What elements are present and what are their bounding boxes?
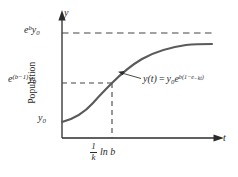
equation-equals-sign: = <box>157 73 167 84</box>
xtick-label-inflection-time: 1 k ln b <box>90 142 115 162</box>
inflection-factor-subscript: 0 <box>33 78 36 85</box>
ytick-label-inflection: e(b−1)y0 <box>8 74 36 86</box>
fraction-numerator: 1 <box>90 142 97 152</box>
fraction-denominator: k <box>91 153 97 163</box>
x-axis <box>62 134 224 141</box>
equation-exponent-close: ) <box>202 73 204 80</box>
equation-exponent-inner-power: −kt <box>194 75 202 81</box>
ln-b-label: ln b <box>100 147 115 157</box>
ytick-label-asymptote: eby0 <box>24 25 40 37</box>
t-axis-label: t <box>223 133 226 143</box>
equation-exponent-open: b(1− <box>179 73 191 80</box>
inflection-exponent: (b−1) <box>12 73 28 80</box>
y0-subscript: 0 <box>42 117 45 124</box>
ytick-label-initial: y0 <box>38 113 46 125</box>
curve-equation-annotation: y(t)=y0eb(1−e−kt) <box>143 74 204 86</box>
equation-function-arg: (t) <box>147 73 156 84</box>
asymptote-factor-subscript: 0 <box>36 29 39 36</box>
fraction-one-over-k: 1 k <box>90 142 97 162</box>
gompertz-growth-figure: y t Population eby0 e(b−1)y0 y0 1 k ln b… <box>0 0 238 177</box>
y-axis-label: y <box>64 8 68 18</box>
y-axis <box>58 10 65 138</box>
